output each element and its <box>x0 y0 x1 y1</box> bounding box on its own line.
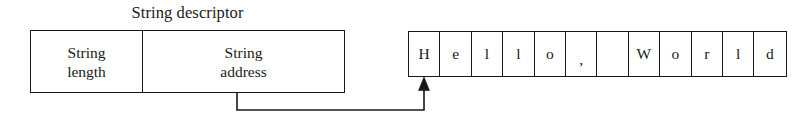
string-buffer-cell: W <box>629 32 660 76</box>
string-buffer-cell: l <box>723 32 754 76</box>
string-address-label-line1: String <box>225 43 263 62</box>
string-descriptor-diagram: String descriptor String length String a… <box>0 0 810 124</box>
string-buffer-cell: , <box>566 32 597 76</box>
string-buffer-cell: l <box>503 32 534 76</box>
string-buffer-cell: e <box>440 32 471 76</box>
string-length-label-line2: length <box>67 62 106 81</box>
string-buffer-cell: l <box>472 32 503 76</box>
pointer-arrowhead-icon <box>419 77 430 91</box>
string-buffer-cells: Hello, World <box>408 31 787 77</box>
descriptor-field-string-length: String length <box>31 31 143 92</box>
string-buffer-cell: H <box>409 32 440 76</box>
string-descriptor-box: String length String address <box>30 30 345 93</box>
diagram-title: String descriptor <box>30 3 345 23</box>
pointer-connector-line <box>237 90 424 110</box>
string-length-label-line1: String <box>68 43 106 62</box>
string-buffer-cell: o <box>660 32 691 76</box>
string-buffer-cell: r <box>692 32 723 76</box>
string-buffer-cell: o <box>535 32 566 76</box>
string-buffer-cell: d <box>754 32 785 76</box>
descriptor-field-string-address: String address <box>143 31 344 92</box>
string-address-label-line2: address <box>220 62 267 81</box>
string-buffer-cell <box>597 32 628 76</box>
